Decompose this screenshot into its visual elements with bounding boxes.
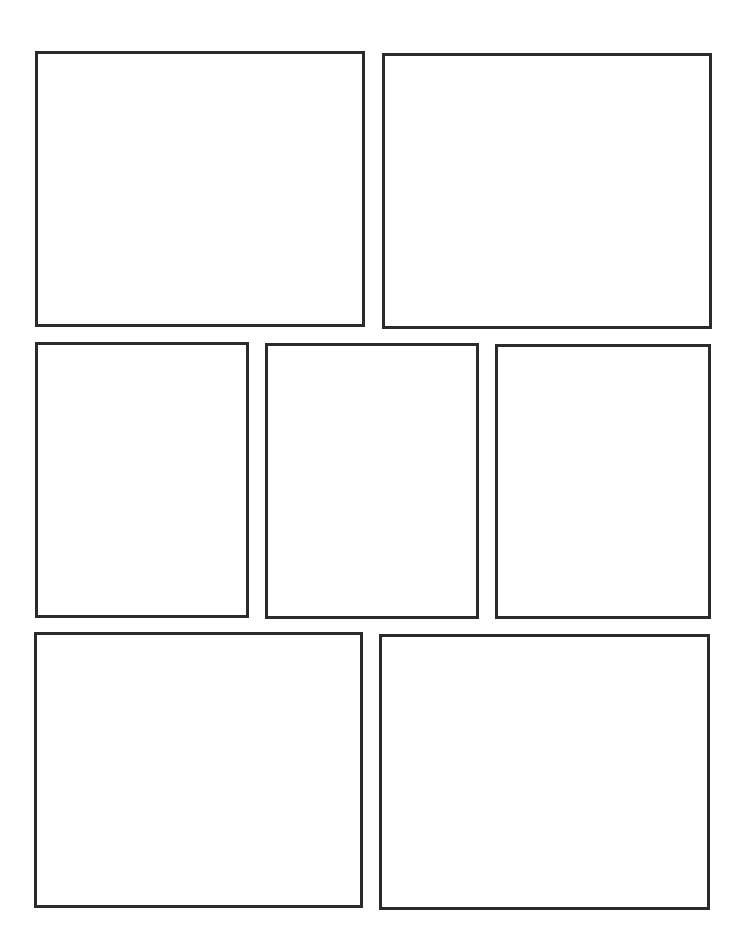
panel-7 xyxy=(379,634,710,910)
panel-3 xyxy=(35,342,249,618)
panel-6 xyxy=(34,632,363,908)
panel-5 xyxy=(495,344,711,619)
panel-4 xyxy=(265,343,479,619)
panel-2 xyxy=(382,53,712,329)
comic-page-template xyxy=(0,0,737,948)
panel-1 xyxy=(35,51,365,327)
